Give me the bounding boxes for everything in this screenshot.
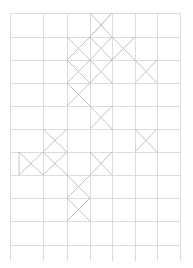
canvas-background [0,0,193,268]
grid-pattern-diagram [0,0,193,268]
pattern-canvas [0,0,193,268]
